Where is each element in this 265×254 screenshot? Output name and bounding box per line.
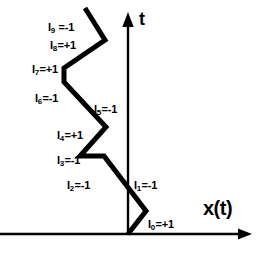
t-axis-arrowhead (122, 12, 133, 27)
segment-value: =-1 (142, 179, 158, 191)
t-axis-label: t (139, 10, 145, 28)
t-axis-group (122, 12, 133, 234)
segment-label-i5: I5=-1 (94, 104, 117, 117)
segment-value: =-1 (56, 21, 74, 33)
segment-label-i2: I2=-1 (67, 180, 90, 193)
zigzag-walk-path (64, 8, 146, 234)
segment-value: =+1 (65, 129, 83, 141)
x-axis-group (0, 229, 252, 240)
segment-label-i6: I6=-1 (35, 93, 58, 106)
x-axis-arrowhead (238, 229, 252, 240)
segment-value: =+1 (58, 39, 76, 51)
segment-value: =-1 (43, 92, 59, 104)
segment-label-i7: I7=+1 (32, 64, 58, 77)
segment-label-i4: I4=+1 (57, 130, 83, 143)
segment-label-i8: I8=+1 (50, 40, 76, 53)
x-axis-label: x(t) (203, 198, 232, 218)
random-walk-figure: t x(t) I0=+1I1=-1I2=-1I3=-1I4=+1I5=-1I6=… (0, 0, 265, 254)
segment-label-i9: I9 =-1 (48, 22, 74, 35)
segment-value: =-1 (65, 154, 81, 166)
segment-value: =+1 (156, 218, 174, 230)
segment-label-i0: I0=+1 (148, 219, 174, 232)
segment-label-i3: I3=-1 (57, 155, 80, 168)
segment-value: =+1 (40, 63, 58, 75)
segment-label-i1: I1=-1 (134, 180, 157, 193)
segment-value: =-1 (102, 103, 118, 115)
segment-value: =-1 (75, 179, 91, 191)
